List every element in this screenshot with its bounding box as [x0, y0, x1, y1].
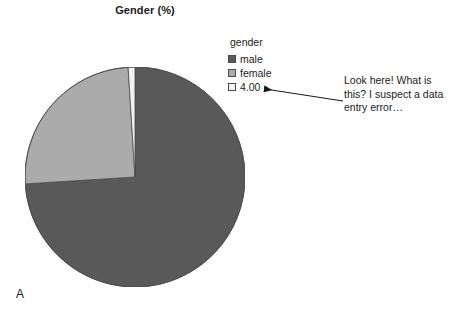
annotation-line-1: Look here! What is — [344, 74, 470, 88]
pie-chart-svg — [25, 67, 245, 287]
annotation-line-2: this? I suspect a data — [344, 88, 470, 102]
legend-label-female: female — [240, 67, 272, 79]
legend-swatch-female — [228, 69, 236, 77]
figure-panel: Gender (%) gender male female 4.00 — [0, 0, 475, 318]
pie-chart — [25, 67, 245, 287]
legend-label-male: male — [240, 53, 263, 65]
chart-title: Gender (%) — [0, 4, 290, 16]
legend-item-male[interactable]: male — [228, 52, 312, 65]
pie-slice-female[interactable] — [25, 67, 135, 184]
annotation-line-3: entry error… — [344, 101, 470, 115]
legend-swatch-male — [228, 55, 236, 63]
legend-swatch-4-00 — [228, 83, 236, 91]
panel-label: A — [16, 287, 24, 301]
legend-title: gender — [228, 36, 312, 48]
arrow-line — [265, 89, 343, 101]
legend-item-female[interactable]: female — [228, 66, 312, 79]
annotation-text: Look here! What is this? I suspect a dat… — [344, 74, 470, 115]
annotation-arrow — [255, 80, 347, 108]
